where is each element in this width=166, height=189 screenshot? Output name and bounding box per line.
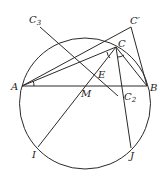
label-e: E	[97, 69, 106, 80]
label-a: A	[10, 81, 18, 92]
label-c3: C3	[29, 14, 42, 27]
label-c-prime: C′	[130, 15, 141, 26]
label-c2: C2	[124, 91, 137, 104]
angle-mark-a	[33, 81, 34, 86]
label-c: C	[118, 38, 126, 49]
segment-ci	[38, 47, 116, 147]
label-b: B	[149, 82, 157, 93]
segment-ac-prime	[22, 27, 131, 86]
geometry-diagram: A B C C′ C3 C2 E M I J	[0, 0, 166, 189]
label-m: M	[80, 88, 92, 99]
label-i: I	[31, 149, 37, 160]
segment-c-prime-b	[131, 27, 147, 86]
label-j: J	[128, 150, 135, 161]
